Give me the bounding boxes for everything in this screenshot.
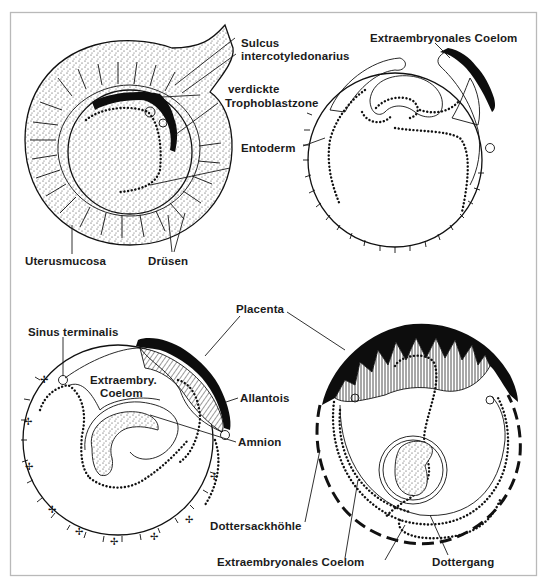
- label-dottersackhoehle: Dottersackhöhle: [210, 520, 302, 532]
- svg-text:✢: ✢: [185, 514, 193, 525]
- label-druesen: Drüsen: [148, 255, 188, 267]
- panel-a-uterus-cross-section: Sulcus intercotyledonarius verdickte Tro…: [25, 25, 350, 267]
- svg-text:✢: ✢: [40, 374, 48, 385]
- label-allantois: Allantois: [240, 392, 289, 404]
- label-trophoblast-line2: Trophoblastzone: [225, 97, 319, 109]
- panel-c-embryo-allantois: ✢✢✢ ✢✢✢ ✢✢✢ Sinus terminalis Placenta Ex…: [21, 303, 289, 547]
- label-sulcus-line1: Sulcus: [241, 37, 279, 49]
- label-entoderm: Entoderm: [241, 142, 295, 154]
- panel-b-early-embryo: Extraembryonales Coelom: [303, 32, 517, 253]
- embryology-figure: Sulcus intercotyledonarius verdickte Tro…: [0, 0, 546, 585]
- svg-text:✢: ✢: [150, 531, 158, 542]
- label-extraembryonales-coelom-top: Extraembryonales Coelom: [370, 32, 517, 44]
- svg-text:✢: ✢: [75, 526, 83, 537]
- label-extraembry-line2: Coelom: [100, 387, 143, 399]
- label-uterusmucosa: Uterusmucosa: [25, 255, 107, 267]
- label-extraembry-line1: Extraembry.: [90, 374, 157, 386]
- label-extraembryonales-coelom-bottom: Extraembryonales Coelom: [217, 556, 364, 568]
- svg-text:✢: ✢: [110, 536, 118, 547]
- label-dottergang: Dottergang: [432, 556, 494, 568]
- svg-text:✢: ✢: [24, 416, 32, 427]
- label-sulcus-line2: intercotyledonarius: [241, 50, 350, 62]
- label-placenta: Placenta: [236, 303, 285, 315]
- svg-text:✢: ✢: [25, 461, 33, 472]
- label-sinus-terminalis: Sinus terminalis: [28, 326, 118, 338]
- svg-text:✢: ✢: [48, 504, 56, 515]
- label-amnion: Amnion: [238, 436, 281, 448]
- label-trophoblast-line1: verdickte: [228, 83, 279, 95]
